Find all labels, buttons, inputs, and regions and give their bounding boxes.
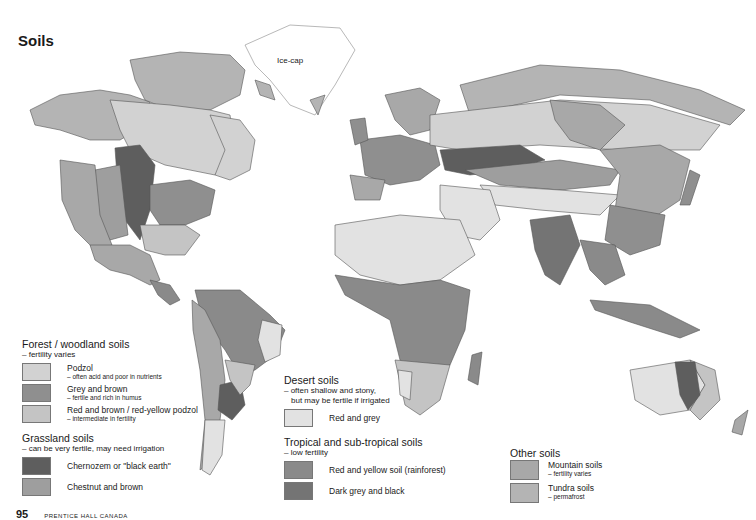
swatch-mountain <box>510 460 539 480</box>
swatch-podzol <box>22 363 51 381</box>
legend-item-red-yellow: Red and yellow soil (rainforest) <box>284 461 446 479</box>
legend-item-red-brown: Red and brown / red-yellow podzol – inte… <box>22 405 198 423</box>
legend-label: Red and yellow soil (rainforest) <box>329 461 446 479</box>
legend-label: Red and brown / red-yellow podzol <box>67 405 198 415</box>
region-kalahari <box>398 370 412 400</box>
legend-item-chernozem: Chernozem or "black earth" <box>22 457 171 475</box>
legend-tropical-soils: Tropical and sub-tropical soils – low fe… <box>284 436 446 500</box>
legend-forest-subtitle: – fertility varies <box>22 350 198 360</box>
swatch-chernozem <box>22 457 51 475</box>
region-na-southeast <box>140 225 200 255</box>
swatch-red-yellow <box>284 461 313 479</box>
region-central-america <box>150 280 180 305</box>
legend-grassland-title: Grassland soils <box>22 432 171 444</box>
legend-item-podzol: Podzol – often acid and poor in nutrient… <box>22 363 198 381</box>
region-africa-tropical <box>335 275 470 375</box>
legend-desert-subtitle-1: – often shallow and stony, <box>284 386 390 396</box>
swatch-chestnut <box>22 478 51 496</box>
legend-note: – fertile and rich in humus <box>67 394 141 402</box>
region-europe-west <box>360 135 440 185</box>
legend-label: Grey and brown <box>67 384 141 394</box>
region-greenland-icecap <box>245 25 355 115</box>
legend-forest-title: Forest / woodland soils <box>22 338 198 350</box>
legend-note: – intermediate in fertility <box>67 415 198 423</box>
legend-item-tundra: Tundra soils – permafrost <box>510 483 602 503</box>
legend-label: Chernozem or "black earth" <box>67 457 171 475</box>
region-sahara <box>335 215 475 285</box>
legend-other-title: Other soils <box>510 447 602 459</box>
page-footer: 95PRENTICE HALL CANADA <box>16 508 128 520</box>
swatch-grey-brown <box>22 384 51 402</box>
swatch-tundra <box>510 483 539 503</box>
legend-tropical-title: Tropical and sub-tropical soils <box>284 436 446 448</box>
legend-label: Tundra soils <box>548 483 594 493</box>
legend-note: – often acid and poor in nutrients <box>67 373 162 381</box>
publisher-name: PRENTICE HALL CANADA <box>44 513 127 519</box>
swatch-dark-grey-black <box>284 482 313 500</box>
icecap-label: Ice-cap <box>277 56 303 65</box>
legend-item-grey-brown: Grey and brown – fertile and rich in hum… <box>22 384 198 402</box>
region-india <box>530 215 580 285</box>
swatch-red-grey <box>284 409 313 427</box>
legend-other-soils: Other soils Mountain soils – fertility v… <box>510 447 602 503</box>
legend-forest-soils: Forest / woodland soils – fertility vari… <box>22 338 198 423</box>
legend-label: Red and grey <box>329 409 380 427</box>
legend-label: Dark grey and black <box>329 482 405 500</box>
legend-desert-soils: Desert soils – often shallow and stony, … <box>284 374 390 427</box>
legend-label: Podzol <box>67 363 162 373</box>
region-new-zealand <box>732 410 748 435</box>
legend-grassland-subtitle: – can be very fertile, may need irrigati… <box>22 444 171 454</box>
swatch-red-brown <box>22 405 51 423</box>
legend-item-chestnut: Chestnut and brown <box>22 478 171 496</box>
legend-item-dark-grey-black: Dark grey and black <box>284 482 446 500</box>
region-uk <box>350 118 368 145</box>
legend-desert-title: Desert soils <box>284 374 390 386</box>
page-number: 95 <box>16 508 28 520</box>
region-sa-south <box>202 420 225 475</box>
region-na-greybrown <box>150 180 215 225</box>
legend-item-mountain: Mountain soils – fertility varies <box>510 460 602 480</box>
legend-tropical-subtitle: – low fertility <box>284 448 446 458</box>
legend-item-red-grey: Red and grey <box>284 409 390 427</box>
region-indonesia <box>590 300 700 338</box>
region-central-asia-desert <box>480 185 620 215</box>
legend-desert-subtitle-2: but may be fertile if irrigated <box>284 396 390 406</box>
legend-note: – permafrost <box>548 493 594 501</box>
legend-note: – fertility varies <box>548 470 602 478</box>
legend-grassland-soils: Grassland soils – can be very fertile, m… <box>22 432 171 496</box>
legend-label: Mountain soils <box>548 460 602 470</box>
legend-label: Chestnut and brown <box>67 478 143 496</box>
region-madagascar <box>468 352 482 385</box>
